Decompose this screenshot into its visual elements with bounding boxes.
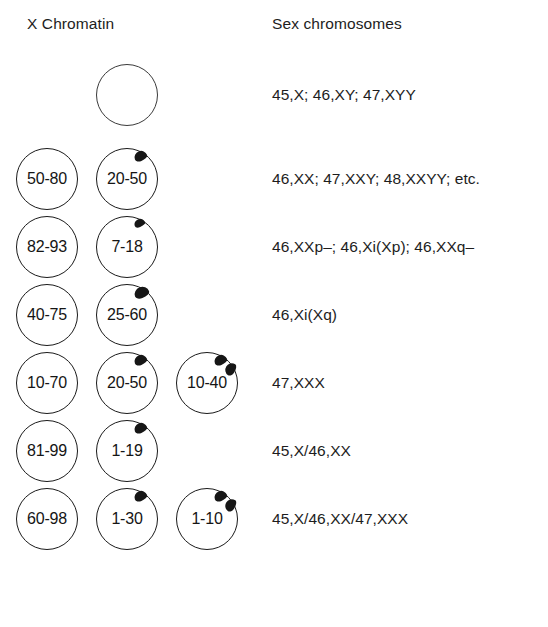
x-chromatin-figure: X Chromatin Sex chromosomes 45,X; 46,XY;… <box>0 0 548 627</box>
diagram-row: 45,X; 46,XY; 47,XYY <box>0 62 548 128</box>
nucleus-percentage-label: 10-40 <box>176 352 238 414</box>
nucleus-percentage-label: 7-18 <box>96 216 158 278</box>
header-x-chromatin: X Chromatin <box>27 14 114 34</box>
karyotype-label: 45,X/46,XX/47,XXX <box>272 486 408 552</box>
karyotype-label: 46,XX; 47,XXY; 48,XXYY; etc. <box>272 146 480 212</box>
diagram-row: 60-981-301-1045,X/46,XX/47,XXX <box>0 486 548 552</box>
header-sex-chromosomes: Sex chromosomes <box>272 14 402 34</box>
nucleus-cell <box>96 64 158 126</box>
column-headers: X Chromatin Sex chromosomes <box>0 14 548 38</box>
nucleus-percentage-label: 40-75 <box>16 284 78 346</box>
nucleus-cell: 10-70 <box>16 352 78 414</box>
nucleus-cell: 82-93 <box>16 216 78 278</box>
nucleus-cell: 25-60 <box>96 284 158 346</box>
nucleus-cell: 50-80 <box>16 148 78 210</box>
karyotype-label: 46,XXp–; 46,Xi(Xp); 46,XXq– <box>272 214 474 280</box>
nucleus-percentage-label: 1-30 <box>96 488 158 550</box>
nucleus-cell: 1-30 <box>96 488 158 550</box>
nucleus-percentage-label: 60-98 <box>16 488 78 550</box>
nucleus-cell: 20-50 <box>96 148 158 210</box>
nucleus-cell: 81-99 <box>16 420 78 482</box>
diagram-row: 10-7020-5010-4047,XXX <box>0 350 548 416</box>
karyotype-label: 45,X/46,XX <box>272 418 351 484</box>
nucleus-percentage-label: 10-70 <box>16 352 78 414</box>
karyotype-label: 47,XXX <box>272 350 325 416</box>
diagram-row: 50-8020-5046,XX; 47,XXY; 48,XXYY; etc. <box>0 146 548 212</box>
nucleus-cell: 1-19 <box>96 420 158 482</box>
nucleus-cell: 20-50 <box>96 352 158 414</box>
nucleus-percentage-label: 25-60 <box>96 284 158 346</box>
nucleus-percentage-label: 50-80 <box>16 148 78 210</box>
nucleus-percentage-label: 1-19 <box>96 420 158 482</box>
diagram-row: 82-937-1846,XXp–; 46,Xi(Xp); 46,XXq– <box>0 214 548 280</box>
nucleus-percentage-label: 20-50 <box>96 352 158 414</box>
nucleus-percentage-label: 82-93 <box>16 216 78 278</box>
nucleus-cell: 1-10 <box>176 488 238 550</box>
diagram-row: 81-991-1945,X/46,XX <box>0 418 548 484</box>
nucleus-cell: 7-18 <box>96 216 158 278</box>
nucleus-cell: 40-75 <box>16 284 78 346</box>
nucleus-cell: 60-98 <box>16 488 78 550</box>
karyotype-label: 45,X; 46,XY; 47,XYY <box>272 62 416 128</box>
nucleus-percentage-label: 81-99 <box>16 420 78 482</box>
nucleus-percentage-label: 20-50 <box>96 148 158 210</box>
diagram-row: 40-7525-6046,Xi(Xq) <box>0 282 548 348</box>
karyotype-label: 46,Xi(Xq) <box>272 282 337 348</box>
nucleus-percentage-label: 1-10 <box>176 488 238 550</box>
nucleus-cell: 10-40 <box>176 352 238 414</box>
nucleus-percentage-label <box>96 64 158 126</box>
